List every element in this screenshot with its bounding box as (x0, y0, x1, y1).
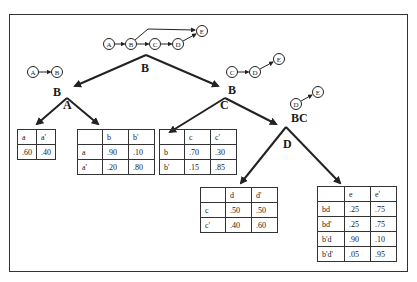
cpt-table-e: ee' bd.25.75 bd'.25.75 b'd.90.10 b'd'.05… (317, 186, 397, 262)
svg-text:B: B (129, 41, 134, 49)
cpt-table-d: dd' c.50.50 c'.40.60 (200, 187, 278, 233)
svg-text:D: D (293, 101, 298, 109)
svg-text:E: E (277, 56, 281, 64)
svg-text:A: A (30, 69, 35, 77)
bc-edge-label: D (283, 138, 292, 150)
root-edge-label: B (141, 62, 149, 74)
right-edge-label: C (220, 99, 229, 111)
svg-text:E: E (316, 89, 320, 97)
svg-text:C: C (153, 41, 158, 49)
svg-text:C: C (230, 69, 235, 77)
cpt-table-c: cc' b.70.30 b'.15.85 (159, 129, 237, 175)
branch-root-left (75, 55, 146, 86)
left-node-label: B (53, 86, 61, 98)
branch-right-c (170, 98, 225, 132)
bc-node-label: BC (291, 112, 308, 124)
cpt-table-b: bb' a.90.10 a'.20.80 (77, 129, 155, 175)
svg-text:E: E (200, 28, 204, 36)
right-node-label: B (228, 84, 236, 96)
branch-right-bc (225, 98, 276, 124)
left-edge-label: A (63, 99, 72, 111)
branch-bc-e (286, 127, 340, 183)
svg-text:D: D (252, 69, 257, 77)
branch-root-right (146, 55, 218, 86)
cpt-table-a: aa' .60.40 (17, 129, 56, 160)
svg-text:A: A (106, 41, 111, 49)
svg-text:B: B (55, 69, 60, 77)
branch-bc-d (241, 127, 286, 183)
svg-text:D: D (175, 41, 180, 49)
